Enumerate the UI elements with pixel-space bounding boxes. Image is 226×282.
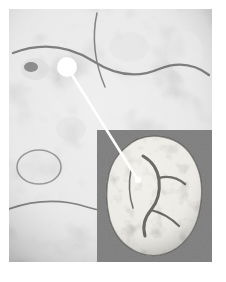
sem-micrograph — [9, 9, 212, 262]
figure-caption — [9, 266, 217, 278]
inset-texture — [97, 130, 212, 262]
page-root — [0, 0, 226, 282]
inset-panel — [97, 130, 212, 262]
